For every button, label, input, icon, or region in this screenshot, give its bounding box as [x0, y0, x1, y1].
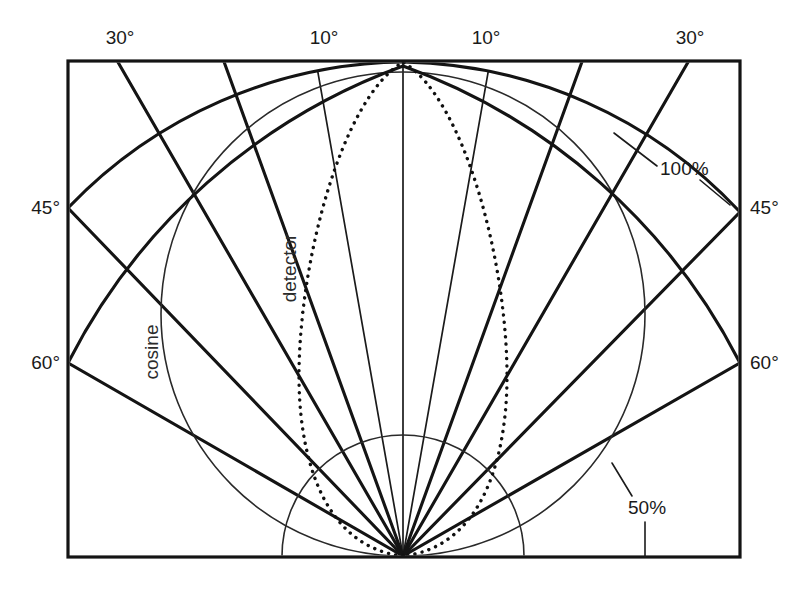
arc-60-degrees-left [68, 66, 403, 363]
polar-radiation-diagram: 30° 10° 10° 30° 45° 60° 45° 60° cosine d… [0, 0, 806, 589]
angle-label-left-60: 60° [31, 352, 60, 373]
ray-60-degrees-left [68, 363, 403, 556]
plot-frame [68, 61, 740, 557]
polar-diagram-figure: 30° 10° 10° 30° 45° 60° 45° 60° cosine d… [0, 0, 806, 589]
curve-label-detector: detector [279, 233, 300, 302]
curve-label-100-percent: 100% [660, 158, 709, 179]
arc-45-degrees-right [403, 62, 740, 212]
curve-label-50-percent: 50% [628, 497, 666, 518]
leader-line-50-percent-upper [612, 463, 632, 496]
ray-20-degrees-right [403, 62, 582, 556]
arc-60-degrees-right [403, 66, 740, 363]
curve-label-cosine: cosine [141, 325, 162, 380]
arc-45-degrees-left [68, 62, 403, 208]
ray-20-degrees-left [224, 62, 403, 556]
ray-45-degrees-left [68, 208, 403, 556]
angle-label-left-45: 45° [31, 197, 60, 218]
angle-label-top-10-right: 10° [472, 27, 501, 48]
angle-label-top-30-right: 30° [676, 27, 705, 48]
angle-label-right-45: 45° [750, 197, 779, 218]
angle-label-top-10-left: 10° [310, 27, 339, 48]
angle-label-right-60: 60° [750, 352, 779, 373]
leader-line-100-percent-b [700, 180, 730, 205]
angle-label-top-30-left: 30° [106, 27, 135, 48]
ray-60-degrees-right [403, 363, 740, 556]
